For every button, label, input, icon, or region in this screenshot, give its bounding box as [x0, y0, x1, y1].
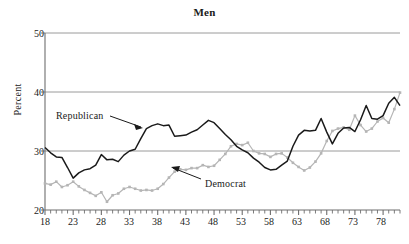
annotation-label-republican: Republican — [56, 110, 104, 121]
chart-figure: Men Percent 50 40 30 20 18 23 28 33 38 4… — [0, 0, 409, 244]
x-tick-marks — [45, 210, 400, 215]
annotation-arrow-republican — [110, 116, 143, 130]
annotation-label-democrat: Democrat — [205, 178, 246, 189]
plot-area — [0, 0, 409, 244]
